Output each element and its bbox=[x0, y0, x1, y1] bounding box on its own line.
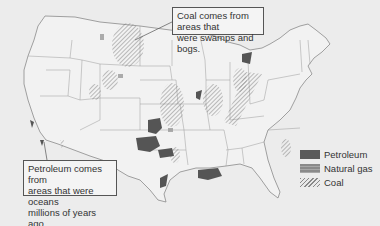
coal-swatch-icon bbox=[300, 178, 320, 187]
legend-label: Petroleum bbox=[324, 149, 367, 160]
petroleum-swatch-icon bbox=[300, 150, 320, 159]
legend-label: Natural gas bbox=[324, 163, 373, 174]
petroleum-callout-line1: Petroleum comes from bbox=[28, 163, 112, 185]
petroleum-callout: Petroleum comes from areas that were oce… bbox=[23, 160, 117, 196]
petroleum-callout-line3: millions of years ago. bbox=[28, 207, 112, 226]
legend-item-natural-gas: Natural gas bbox=[300, 162, 373, 174]
legend-item-petroleum: Petroleum bbox=[300, 148, 373, 160]
legend-label: Coal bbox=[324, 177, 344, 188]
coal-callout-line1: Coal comes from areas that bbox=[177, 10, 259, 32]
map-legend: Petroleum Natural gas Coal bbox=[300, 148, 373, 190]
coal-callout-line2: were swamps and bogs. bbox=[177, 32, 259, 54]
legend-item-coal: Coal bbox=[300, 176, 373, 188]
petroleum-leader-line bbox=[44, 142, 47, 160]
natural-gas-swatch-icon bbox=[300, 164, 320, 173]
coal-callout: Coal comes from areas that were swamps a… bbox=[172, 7, 264, 35]
petroleum-callout-line2: areas that were oceans bbox=[28, 185, 112, 207]
